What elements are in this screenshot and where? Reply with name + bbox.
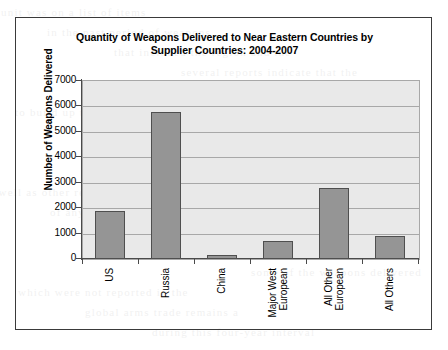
- bar-slot: [362, 80, 418, 259]
- x-axis-tick: [250, 259, 251, 264]
- y-axis-tick: [76, 131, 81, 132]
- y-axis-tick-label: 6000: [30, 100, 76, 110]
- chart-frame: Quantity of Weapons Delivered to Near Ea…: [15, 17, 432, 330]
- x-axis-tick-label: Major WestEuropean: [268, 268, 289, 348]
- bar[interactable]: [151, 112, 181, 259]
- x-axis-tick: [82, 259, 83, 264]
- chart-title-line-1: Quantity of Weapons Delivered to Near Ea…: [76, 31, 373, 43]
- y-axis-tick-label: 3000: [30, 177, 76, 187]
- bar-slot: [138, 80, 194, 259]
- bar-slot: [194, 80, 250, 259]
- x-axis-tick-label: All Others: [385, 268, 396, 348]
- bar-slot: [250, 80, 306, 259]
- x-axis-tick: [306, 259, 307, 264]
- x-axis-tick-label: US: [105, 268, 116, 348]
- y-axis-tick: [76, 207, 81, 208]
- bar[interactable]: [319, 188, 349, 259]
- y-axis-tick: [76, 156, 81, 157]
- bar[interactable]: [375, 236, 405, 259]
- y-axis-tick: [76, 233, 81, 234]
- x-axis-tick: [194, 259, 195, 264]
- x-axis-tick: [418, 259, 419, 264]
- chart-title-line-2: Supplier Countries: 2004-2007: [30, 44, 419, 57]
- bar-series: [82, 80, 418, 259]
- chart-title: Quantity of Weapons Delivered to Near Ea…: [30, 31, 419, 57]
- y-axis-tick: [76, 80, 81, 81]
- bar[interactable]: [263, 241, 293, 259]
- y-axis-tick-label: 1000: [30, 228, 76, 238]
- y-axis-tick-label: 4000: [30, 151, 76, 161]
- y-axis-tick-label: 0: [30, 253, 76, 263]
- y-axis-tick: [76, 258, 81, 259]
- bar-slot: [82, 80, 138, 259]
- y-axis-title: Number of Weapons Delivered: [43, 45, 54, 195]
- x-axis-tick: [138, 259, 139, 264]
- bar-slot: [306, 80, 362, 259]
- y-axis-tick: [76, 105, 81, 106]
- x-axis-tick-label: Russia: [161, 268, 172, 348]
- y-axis-tick-label: 7000: [30, 75, 76, 85]
- bar[interactable]: [207, 255, 237, 259]
- y-axis-tick: [76, 182, 81, 183]
- x-axis-tick-label: China: [217, 268, 228, 348]
- x-axis-tick-label: All OtherEuropean: [324, 268, 345, 348]
- y-axis-tick-label: 5000: [30, 126, 76, 136]
- bar[interactable]: [95, 211, 125, 259]
- y-axis-tick-label: 2000: [30, 202, 76, 212]
- x-axis-tick: [362, 259, 363, 264]
